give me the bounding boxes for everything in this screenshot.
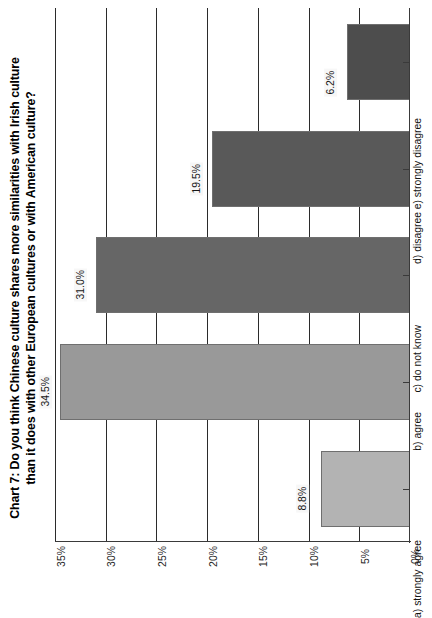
- category-tick: [403, 169, 410, 170]
- category-label-disagree: d) disagree: [412, 212, 432, 223]
- bar-strongly-disagree: [347, 24, 410, 100]
- category-tick: [403, 489, 410, 490]
- category-label-text: c) do not know: [412, 325, 423, 393]
- category-label-text: a) strongly agree: [412, 540, 423, 618]
- category-tick: [403, 382, 410, 383]
- chart-title-line-2: than it does with other European culture…: [23, 8, 39, 568]
- bar-agree: [60, 344, 410, 420]
- bar-do-not-know: [96, 237, 410, 313]
- value-tick-label: 30%: [94, 546, 117, 567]
- category-label-strongly-agree: a) strongly agree: [412, 540, 432, 551]
- category-label-agree: b) agree: [412, 412, 432, 423]
- plot-area: [55, 8, 410, 542]
- data-label-agree: 34.5%: [39, 375, 52, 408]
- value-axis-labels: 35% 30% 25% 20% 15% 10% 5% 0%: [0, 543, 432, 575]
- value-tick-label: 25%: [145, 546, 168, 567]
- value-tick-label: 35%: [43, 546, 66, 567]
- value-tick-label: 10%: [297, 546, 320, 567]
- category-label-do-not-know: c) do not know: [412, 325, 432, 336]
- bar-strongly-agree: [321, 451, 410, 527]
- gridline: [55, 8, 56, 542]
- value-tick-label: 20%: [196, 546, 219, 567]
- category-label-text: d) disagree: [412, 212, 423, 264]
- category-label-text: e) strongly disagree: [412, 118, 423, 209]
- chart-title: Chart 7: Do you think Chinese culture sh…: [0, 0, 46, 575]
- bar-disagree: [212, 131, 410, 207]
- data-label-strongly-disagree: 6.2%: [324, 69, 337, 97]
- data-label-strongly-agree: 8.8%: [296, 485, 309, 513]
- chart-title-line-1: Chart 7: Do you think Chinese culture sh…: [7, 8, 23, 568]
- value-axis-line: [55, 541, 411, 542]
- category-label-strongly-disagree: e) strongly disagree: [412, 118, 432, 129]
- data-label-disagree: 19.5%: [190, 162, 203, 195]
- value-tick-label: 5%: [348, 549, 371, 564]
- category-label-text: b) agree: [412, 412, 423, 451]
- category-tick: [403, 62, 410, 63]
- value-tick-label: 15%: [246, 546, 269, 567]
- category-tick: [403, 275, 410, 276]
- data-label-do-not-know: 31.0%: [74, 268, 87, 301]
